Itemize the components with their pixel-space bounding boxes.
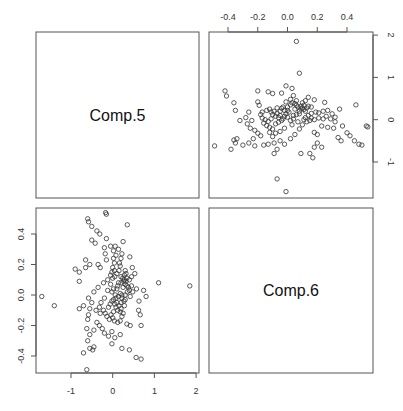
data-point [85,368,89,372]
data-point [81,304,85,308]
data-point [267,130,271,134]
data-point [134,355,138,359]
data-point [284,100,288,104]
data-point [324,114,328,118]
tick-label: 1 [152,386,157,396]
data-point [275,106,279,110]
data-point [104,258,108,262]
tick-label: 0.0 [281,12,294,22]
pairs-plot: Comp.5 Comp.6 -0.4-0.20.00.20.4 -1012 -0… [0,0,403,411]
data-point [111,249,115,253]
data-point [275,147,279,151]
data-point [106,334,110,338]
data-point [229,147,233,151]
data-point [320,145,324,149]
tick-label: -0.4 [16,348,26,364]
data-point [275,177,279,181]
data-point [320,124,324,128]
data-point [247,141,251,145]
data-point [270,134,274,138]
data-point [88,307,92,311]
data-point [312,98,316,102]
data-point [95,229,99,233]
data-point [233,108,237,112]
data-point [314,110,318,114]
data-point [85,326,89,330]
data-point [122,304,126,308]
data-point [83,258,87,262]
tick-label: -1 [67,386,75,396]
data-point [360,143,364,147]
tick-label: 2 [194,386,199,396]
data-point [93,241,97,245]
data-point [326,125,330,129]
data-point [212,144,216,148]
scatter-points-top-right [212,39,370,194]
data-point [238,118,242,122]
data-point [256,89,260,93]
data-point [259,134,263,138]
data-point [120,252,124,256]
tick-label: 0.2 [16,258,26,271]
data-point [288,137,292,141]
data-point [309,105,313,109]
tick-label: 0.4 [16,228,26,241]
data-point [139,323,143,327]
data-point [224,94,228,98]
data-point [311,156,315,160]
data-point [127,348,131,352]
data-point [98,265,102,269]
tick-label: 1 [386,75,396,80]
data-point [104,236,108,240]
data-point [272,151,276,155]
data-point [137,299,141,303]
data-point [282,142,286,146]
data-point [102,296,106,300]
data-point [139,357,143,361]
data-point [81,351,85,355]
top-x-axis: -0.4-0.20.00.20.4 [220,12,353,32]
tick-label: 0.0 [16,289,26,302]
data-point [348,134,352,138]
data-point [297,127,301,131]
data-point [128,255,132,259]
data-point [110,342,114,346]
data-point [291,93,295,97]
data-point [92,328,96,332]
data-point [321,109,325,113]
data-point [102,331,106,335]
data-point [323,100,327,104]
data-point [113,336,117,340]
tick-label: -1 [386,158,396,166]
tick-label: -0.2 [250,12,266,22]
data-point [121,239,125,243]
data-point [144,294,148,298]
data-point [99,300,103,304]
data-point [326,108,330,112]
data-point [40,294,44,298]
data-point [111,310,115,314]
data-point [278,139,282,143]
data-point [337,107,341,111]
data-point [299,151,303,155]
data-point [270,91,274,95]
data-point [357,142,361,146]
data-point [103,210,107,214]
data-point [250,118,254,122]
panel-bottom-left-frame [36,208,199,373]
data-point [86,339,90,343]
scatter-points-bottom-left [40,210,192,371]
data-point [119,256,123,260]
data-point [96,262,100,266]
data-point [223,89,227,93]
data-point [120,346,124,350]
data-point [366,125,370,129]
data-point [331,126,335,130]
data-point [102,246,106,250]
data-point [290,86,294,90]
data-point [253,144,257,148]
data-point [125,223,129,227]
data-point [312,145,316,149]
data-point [134,287,138,291]
data-point [103,252,107,256]
